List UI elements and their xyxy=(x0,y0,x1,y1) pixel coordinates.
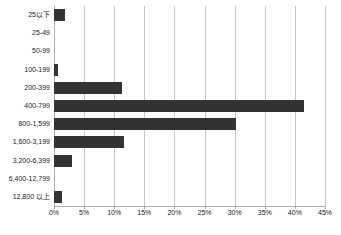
x-tick-label: 15% xyxy=(137,209,151,216)
bar xyxy=(54,64,58,76)
x-tick-label: 35% xyxy=(258,209,272,216)
x-tick-label: 25% xyxy=(198,209,212,216)
bar xyxy=(54,82,122,94)
y-axis-category-label: 25-49 xyxy=(0,28,50,37)
gridline xyxy=(325,6,326,206)
x-axis-tick-labels: 0%5%10%15%20%25%30%35%40%45% xyxy=(54,209,325,223)
y-axis-category-label: 3,200-6,399 xyxy=(0,156,50,165)
bar xyxy=(54,9,65,21)
y-axis-category-label: 800-1,599 xyxy=(0,119,50,128)
bar xyxy=(54,155,72,167)
y-axis-category-label: 12,800 以上 xyxy=(0,192,50,201)
bar xyxy=(54,191,62,203)
x-tick-label: 0% xyxy=(49,209,59,216)
y-axis-category-label: 6,400-12,799 xyxy=(0,174,50,183)
bar xyxy=(54,118,236,130)
y-axis-category-label: 400-799 xyxy=(0,101,50,110)
bar xyxy=(54,136,124,148)
x-tick-label: 20% xyxy=(167,209,181,216)
y-axis-category-label: 25以下 xyxy=(0,10,50,19)
x-tick-label: 45% xyxy=(318,209,332,216)
y-axis-category-label: 200-399 xyxy=(0,83,50,92)
x-tick-label: 5% xyxy=(79,209,89,216)
x-tick-label: 30% xyxy=(228,209,242,216)
y-axis-category-label: 100-199 xyxy=(0,65,50,74)
x-tick-label: 10% xyxy=(107,209,121,216)
y-axis-labels: 25以下25-4950-99100-199200-399400-799800-1… xyxy=(0,6,50,206)
y-axis-category-label: 50-99 xyxy=(0,46,50,55)
y-axis-category-label: 1,600-3,199 xyxy=(0,137,50,146)
bar xyxy=(54,100,304,112)
x-tick-label: 40% xyxy=(288,209,302,216)
bar-chart: 25以下25-4950-99100-199200-399400-799800-1… xyxy=(0,0,341,235)
